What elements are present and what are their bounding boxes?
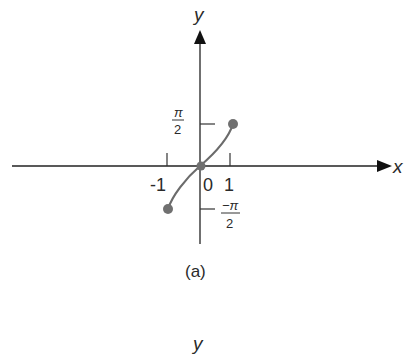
x-axis-label: x: [392, 156, 404, 177]
y-tick-label-negpi-den: 2: [226, 216, 233, 231]
second-figure-y-label: y: [191, 333, 204, 354]
x-tick-label-0: 0: [203, 175, 213, 195]
x-tick-label-neg1: -1: [150, 175, 166, 195]
point-neg1: [163, 204, 173, 214]
x-axis-arrow-icon: [377, 160, 392, 172]
x-tick-label-1: 1: [224, 175, 234, 195]
figure-caption: (a): [185, 262, 206, 281]
y-tick-label-pi-num: π: [174, 105, 183, 120]
point-origin: [197, 162, 206, 171]
graph-figure: y x -1 0 1 π 2 −π 2 (a) y: [0, 0, 410, 357]
y-axis-arrow-icon: [194, 30, 206, 44]
y-axis-label: y: [192, 4, 205, 25]
point-1: [228, 119, 238, 129]
y-tick-label-pi-den: 2: [174, 122, 181, 137]
y-tick-label-negpi-num: −π: [222, 198, 239, 213]
